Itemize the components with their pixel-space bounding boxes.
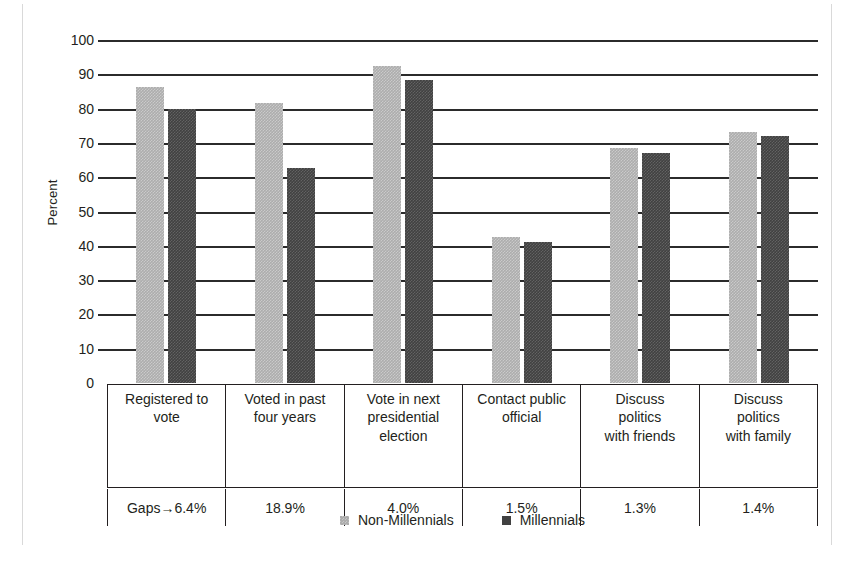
y-tick-label: 60 bbox=[54, 170, 94, 184]
y-tick-label: 30 bbox=[54, 273, 94, 287]
gridline bbox=[107, 212, 818, 214]
legend-item: Millennials bbox=[502, 512, 585, 528]
legend-label: Millennials bbox=[520, 512, 585, 528]
gridline bbox=[107, 349, 818, 351]
bar bbox=[729, 132, 757, 383]
y-tick-mark bbox=[98, 349, 107, 351]
gridline bbox=[107, 109, 818, 111]
gridline bbox=[107, 40, 818, 42]
y-tick-label: 100 bbox=[54, 33, 94, 47]
y-tick-label: 0 bbox=[54, 376, 94, 390]
bar bbox=[168, 109, 196, 383]
category-label: Vote in next presidential election bbox=[367, 390, 440, 445]
y-tick-mark bbox=[98, 40, 107, 42]
category-cell: Vote in next presidential election bbox=[345, 385, 463, 487]
y-tick-mark bbox=[98, 177, 107, 179]
legend-item: Non-Millennials bbox=[340, 512, 454, 528]
category-cell: Voted in past four years bbox=[226, 385, 344, 487]
y-tick-mark bbox=[98, 143, 107, 145]
y-tick-label: 90 bbox=[54, 67, 94, 81]
bar bbox=[492, 237, 520, 383]
y-tick-label: 80 bbox=[54, 102, 94, 116]
gridline bbox=[107, 143, 818, 145]
bar bbox=[524, 242, 552, 383]
gridline bbox=[107, 246, 818, 248]
bar bbox=[287, 168, 315, 383]
y-tick-label: 10 bbox=[54, 342, 94, 356]
y-tick-mark bbox=[98, 74, 107, 76]
gridline bbox=[107, 177, 818, 179]
bar bbox=[610, 148, 638, 383]
gridline bbox=[107, 280, 818, 282]
legend-swatch-icon bbox=[502, 516, 511, 525]
category-cell: Discuss politics with family bbox=[700, 385, 817, 487]
category-label: Discuss politics with family bbox=[726, 390, 791, 445]
bar bbox=[642, 153, 670, 383]
legend-swatch-icon bbox=[340, 516, 349, 525]
y-tick-label: 50 bbox=[54, 205, 94, 219]
bar bbox=[761, 136, 789, 383]
bar bbox=[255, 103, 283, 383]
chart-legend: Non-MillennialsMillennials bbox=[107, 500, 818, 540]
bar bbox=[405, 80, 433, 383]
category-label: Contact public official bbox=[477, 390, 566, 427]
bar bbox=[136, 87, 164, 383]
y-tick-mark bbox=[98, 280, 107, 282]
y-tick-label: 70 bbox=[54, 136, 94, 150]
y-axis-tick-labels: 1009080706050403020100 bbox=[48, 40, 107, 383]
category-cell: Contact public official bbox=[463, 385, 581, 487]
category-axis-table: Registered to voteVoted in past four yea… bbox=[107, 384, 818, 488]
category-cell: Discuss politics with friends bbox=[581, 385, 699, 487]
legend-label: Non-Millennials bbox=[358, 512, 454, 528]
y-tick-label: 40 bbox=[54, 239, 94, 253]
y-tick-mark bbox=[98, 246, 107, 248]
category-label: Voted in past four years bbox=[245, 390, 326, 427]
gridline bbox=[107, 314, 818, 316]
y-tick-mark bbox=[98, 314, 107, 316]
bar-chart: Percent 1009080706050403020100 Registere… bbox=[0, 0, 861, 579]
bar bbox=[373, 66, 401, 383]
category-label: Registered to vote bbox=[125, 390, 208, 427]
y-tick-mark bbox=[98, 109, 107, 111]
category-label: Discuss politics with friends bbox=[605, 390, 676, 445]
category-cell: Registered to vote bbox=[108, 385, 226, 487]
gridline bbox=[107, 74, 818, 76]
plot-area bbox=[107, 40, 818, 383]
y-tick-label: 20 bbox=[54, 307, 94, 321]
y-tick-mark bbox=[98, 212, 107, 214]
